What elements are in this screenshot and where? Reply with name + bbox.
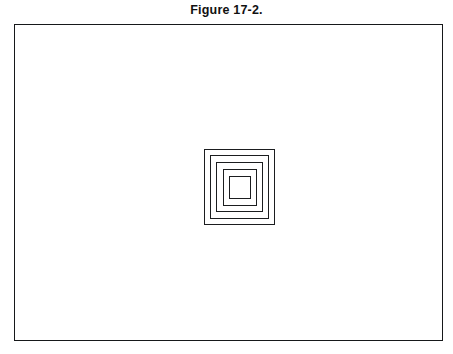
ring-innermost: [229, 176, 251, 199]
figure-page: { "figure": { "caption": "Figure 17-2.",…: [0, 0, 453, 354]
concentric-nested-rectangles: [204, 149, 275, 225]
figure-caption: Figure 17-2.: [0, 2, 453, 18]
figure-frame-border: [14, 24, 443, 341]
